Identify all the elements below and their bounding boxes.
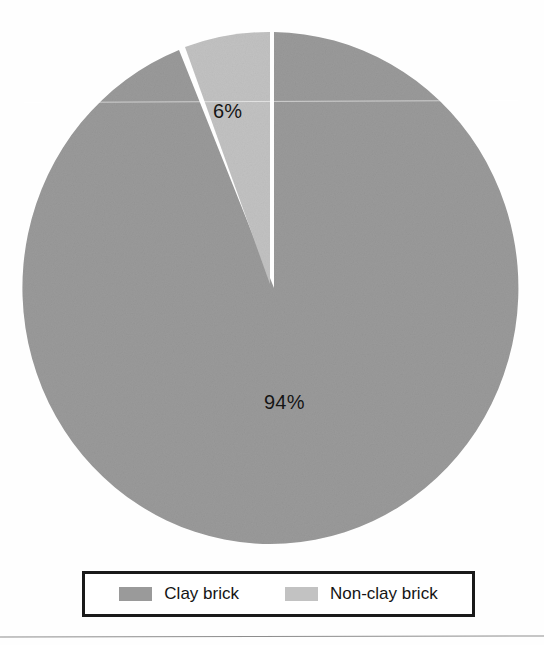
legend-label-clay-brick: Clay brick [164,584,239,604]
pie-slice-clay-brick[interactable] [22,32,518,544]
legend-item-non-clay-brick[interactable]: Non-clay brick [285,584,438,604]
page-bottom-rule [0,635,544,637]
slice-label-clay-brick: 94% [264,391,305,414]
legend-swatch-clay-brick [119,587,152,601]
legend-label-non-clay-brick: Non-clay brick [330,584,438,604]
legend-swatch-non-clay-brick [285,587,318,601]
slice-label-non-clay-brick: 6% [213,100,242,123]
page-canvas: 6% 94% Clay brick Non-clay brick [0,0,544,645]
legend-item-clay-brick[interactable]: Clay brick [119,584,239,604]
pie-chart: 6% 94% [0,0,544,560]
chart-legend: Clay brick Non-clay brick [82,571,475,617]
pie-svg [0,0,544,560]
